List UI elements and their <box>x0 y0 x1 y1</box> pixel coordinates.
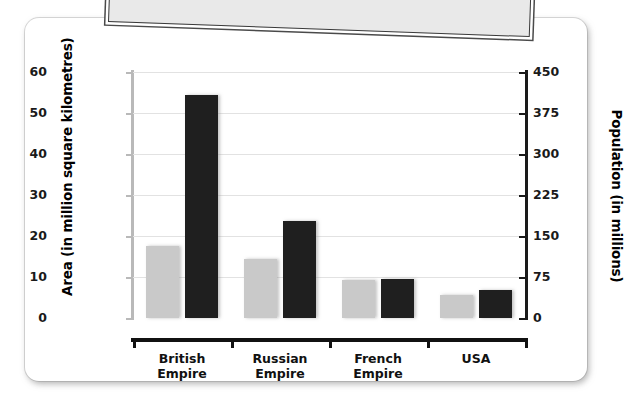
left-tick-label: 20 <box>7 228 47 243</box>
right-tick-mark <box>519 154 527 156</box>
right-tick-label: 450 <box>533 64 573 79</box>
category-label-line: USA <box>421 351 531 366</box>
x-tick-mark <box>231 338 234 348</box>
bar-population-usa <box>479 290 512 318</box>
right-tick-label: 75 <box>533 269 573 284</box>
bar-area-french-empire <box>342 280 375 318</box>
category-label-french-empire: FrenchEmpire <box>323 351 433 381</box>
category-label-line: Russian <box>225 351 335 366</box>
category-label-russian-empire: RussianEmpire <box>225 351 335 381</box>
plot-area <box>133 72 525 318</box>
bar-population-russian-empire <box>283 221 316 318</box>
category-label-line: Empire <box>225 366 335 381</box>
bar-population-british-empire <box>185 95 218 318</box>
x-tick-mark <box>525 338 528 348</box>
right-tick-mark <box>519 277 527 279</box>
right-tick-label: 375 <box>533 105 573 120</box>
left-tick-mark <box>126 72 133 74</box>
right-tick-mark <box>519 318 527 320</box>
left-tick-label: 10 <box>7 269 47 284</box>
left-tick-mark <box>126 154 133 156</box>
category-label-line: Empire <box>127 366 237 381</box>
bar-area-british-empire <box>146 246 179 318</box>
category-label-line: Empire <box>323 366 433 381</box>
x-tick-mark <box>329 338 332 348</box>
category-label-usa: USA <box>421 351 531 366</box>
right-tick-mark <box>519 236 527 238</box>
left-tick-label: 30 <box>7 187 47 202</box>
left-tick-label: 60 <box>7 64 47 79</box>
right-tick-mark <box>519 72 527 74</box>
right-tick-label: 150 <box>533 228 573 243</box>
x-tick-mark <box>427 338 430 348</box>
bar-area-usa <box>440 295 473 318</box>
bar-population-french-empire <box>381 279 414 318</box>
left-tick-label: 40 <box>7 146 47 161</box>
x-tick-mark <box>133 338 136 348</box>
left-tick-mark <box>126 236 133 238</box>
right-tick-mark <box>519 113 527 115</box>
left-axis-title: Area (in million square kilometres) <box>59 96 75 296</box>
category-label-line: French <box>323 351 433 366</box>
left-tick-mark <box>126 113 133 115</box>
left-tick-mark <box>126 318 133 320</box>
category-label-british-empire: BritishEmpire <box>127 351 237 381</box>
right-tick-label: 225 <box>533 187 573 202</box>
right-tick-label: 0 <box>533 310 573 325</box>
right-tick-mark <box>519 195 527 197</box>
right-tick-label: 300 <box>533 146 573 161</box>
chart-card: Area (in million square kilometres) Popu… <box>25 18 587 381</box>
category-label-line: British <box>127 351 237 366</box>
left-tick-mark <box>126 195 133 197</box>
left-tick-mark <box>126 277 133 279</box>
bar-area-russian-empire <box>244 259 277 318</box>
left-tick-label: 0 <box>7 310 47 325</box>
right-axis-title: Population (in millions) <box>609 96 625 296</box>
left-tick-label: 50 <box>7 105 47 120</box>
